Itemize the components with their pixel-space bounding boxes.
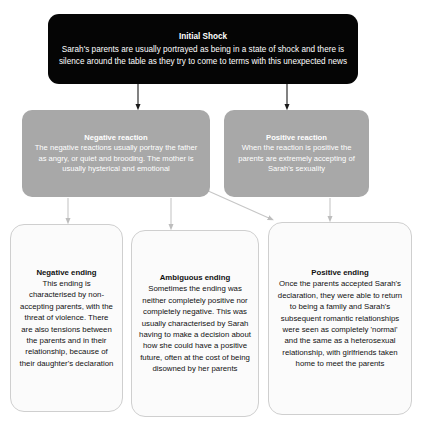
node-negative-reaction-title: Negative reaction [84,132,147,143]
node-ambiguous-ending-title: Ambiguous ending [160,272,231,283]
node-ambiguous-ending-body: Sometimes the ending was neither complet… [139,283,251,374]
node-initial-shock-title: Initial Shock [179,31,227,43]
node-positive-ending: Positive ending Once the parents accepte… [268,222,412,415]
node-initial-shock-body: Sarah's parents are usually portrayed as… [58,44,348,67]
node-initial-shock: Initial Shock Sarah's parents are usuall… [48,14,358,84]
node-negative-ending-title: Negative ending [36,267,96,278]
node-negative-ending-body: This ending is characterised by non-acce… [18,278,115,369]
node-positive-reaction-body: When the reaction is positive the parent… [232,143,361,175]
node-positive-ending-title: Positive ending [311,267,369,278]
node-negative-ending: Negative ending This ending is character… [10,224,123,412]
node-negative-reaction: Negative reaction The negative reactions… [22,110,210,197]
node-positive-ending-body: Once the parents accepted Sarah's declar… [276,278,404,369]
node-negative-reaction-body: The negative reactions usually portray t… [30,143,202,175]
flowchart-diagram: Initial Shock Sarah's parents are usuall… [0,0,423,428]
node-ambiguous-ending: Ambiguous ending Sometimes the ending wa… [131,230,259,417]
node-positive-reaction-title: Positive reaction [266,132,327,143]
node-positive-reaction: Positive reaction When the reaction is p… [224,110,369,197]
